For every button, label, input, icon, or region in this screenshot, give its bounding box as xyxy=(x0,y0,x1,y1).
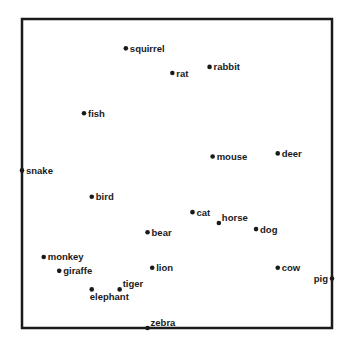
point-lion: lion xyxy=(150,262,173,273)
data-point-marker xyxy=(145,326,150,331)
point-monkey: monkey xyxy=(41,251,84,262)
data-label: rabbit xyxy=(214,61,241,72)
point-rabbit: rabbit xyxy=(207,61,241,72)
data-point-marker xyxy=(20,168,25,173)
data-label: pig xyxy=(314,273,328,284)
data-label: dog xyxy=(260,224,278,235)
data-point-marker xyxy=(207,65,212,70)
point-bear: bear xyxy=(145,227,172,238)
point-fish: fish xyxy=(82,108,105,119)
data-point-marker xyxy=(150,265,155,270)
data-label: rat xyxy=(176,68,189,79)
data-label: squirrel xyxy=(130,43,165,54)
data-label: mouse xyxy=(217,151,248,162)
data-label: bear xyxy=(152,227,172,238)
data-point-marker xyxy=(41,255,46,260)
point-mouse: mouse xyxy=(210,151,247,162)
data-point-marker xyxy=(217,221,222,226)
point-snake: snake xyxy=(20,165,53,176)
data-label: cow xyxy=(282,262,301,273)
data-point-marker xyxy=(170,71,175,76)
point-cow: cow xyxy=(275,262,300,273)
point-bird: bird xyxy=(89,191,113,202)
data-label: elephant xyxy=(90,291,130,302)
data-label: lion xyxy=(156,262,173,273)
data-label: zebra xyxy=(151,317,177,328)
data-point-marker xyxy=(89,194,94,199)
point-deer: deer xyxy=(275,148,302,159)
point-rat: rat xyxy=(170,68,189,79)
data-label: bird xyxy=(96,191,114,202)
points-layer: squirrelratrabbitfishmousedeersnakebirdc… xyxy=(20,43,335,330)
scatter-plot: squirrelratrabbitfishmousedeersnakebirdc… xyxy=(0,0,350,345)
data-point-marker xyxy=(254,227,259,232)
data-point-marker xyxy=(124,46,129,51)
plot-frame xyxy=(22,19,332,328)
point-dog: dog xyxy=(254,224,278,235)
data-point-marker xyxy=(330,276,335,281)
data-label: tiger xyxy=(123,278,144,289)
data-label: cat xyxy=(197,207,212,218)
data-point-marker xyxy=(82,111,87,116)
point-squirrel: squirrel xyxy=(124,43,165,54)
data-point-marker xyxy=(275,151,280,156)
data-point-marker xyxy=(210,154,215,159)
data-label: giraffe xyxy=(63,265,92,276)
data-point-marker xyxy=(145,230,150,235)
data-label: horse xyxy=(222,212,248,223)
point-cat: cat xyxy=(190,207,211,218)
point-tiger: tiger xyxy=(117,278,143,291)
data-point-marker xyxy=(275,265,280,270)
data-label: deer xyxy=(282,148,302,159)
data-point-marker xyxy=(57,269,62,274)
point-giraffe: giraffe xyxy=(57,265,92,276)
point-horse: horse xyxy=(217,212,248,225)
data-label: monkey xyxy=(48,251,85,262)
data-point-marker xyxy=(190,210,195,215)
data-label: snake xyxy=(26,165,53,176)
data-label: fish xyxy=(88,108,105,119)
